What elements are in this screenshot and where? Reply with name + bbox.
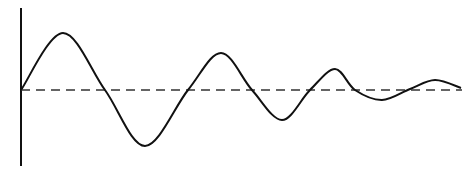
damped-oscillation-diagram bbox=[0, 0, 474, 174]
diagram-canvas bbox=[0, 0, 474, 174]
